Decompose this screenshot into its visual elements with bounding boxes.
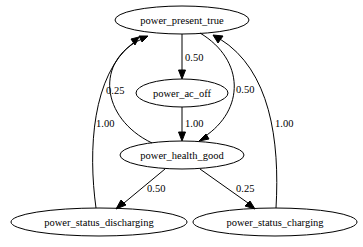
edge-acoff-to-health: 1.00 (179, 107, 204, 141)
edge-label: 0.25 (106, 85, 124, 96)
edge-health-to-charging: 0.25 (200, 169, 255, 209)
node-label: power_status_discharging (44, 217, 154, 228)
edge-label: 0.50 (147, 183, 165, 194)
edge-label: 0.25 (236, 183, 254, 194)
node-power-present-true: power_present_true (115, 6, 249, 34)
node-label: power_present_true (140, 15, 224, 26)
edge-health-to-discharging: 0.50 (116, 169, 165, 209)
edge-label: 1.00 (275, 118, 293, 129)
edge-present-to-acoff: 0.50 (179, 34, 204, 79)
node-power-health-good: power_health_good (120, 141, 244, 169)
node-power-status-charging: power_status_charging (193, 208, 357, 236)
edge-label: 1.00 (96, 118, 114, 129)
node-label: power_status_charging (226, 217, 324, 228)
edge-label: 0.50 (185, 52, 203, 63)
edge-discharging-to-present: 1.00 (93, 37, 139, 208)
edge-label: 1.00 (185, 118, 203, 129)
node-label: power_ac_off (153, 88, 212, 99)
edge-present-to-health: 0.50 (199, 33, 254, 141)
node-power-ac-off: power_ac_off (136, 79, 228, 107)
edge-label: 0.50 (236, 84, 254, 95)
node-label: power_health_good (140, 150, 224, 161)
node-power-status-discharging: power_status_discharging (11, 208, 187, 236)
state-diagram: 0.50 0.50 1.00 0.25 0.50 0.25 1.00 1.00 … (0, 0, 363, 247)
